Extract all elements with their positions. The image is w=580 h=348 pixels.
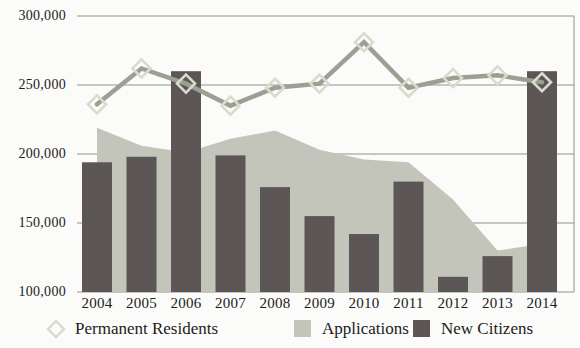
x-axis-label: 2006 — [163, 295, 209, 312]
y-axis-label: 300,000 — [0, 8, 66, 24]
open-diamond-icon — [46, 319, 66, 339]
x-axis-label: 2009 — [297, 295, 343, 312]
new-citizens-bar-2008 — [260, 187, 290, 292]
new-citizens-bar-2014 — [527, 71, 557, 292]
new-citizens-bar-2011 — [394, 182, 424, 292]
legend-item-applications: Applications — [294, 318, 409, 339]
legend-label-applications: Applications — [322, 318, 409, 339]
y-axis-label: 150,000 — [0, 215, 66, 231]
new-citizens-bar-2009 — [305, 216, 335, 292]
y-axis-label: 250,000 — [0, 77, 66, 93]
new-citizens-bar-2010 — [349, 234, 379, 292]
new-citizens-bar-2007 — [216, 155, 246, 292]
legend-item-new-citizens: New Citizens — [413, 318, 533, 339]
x-axis-label: 2014 — [519, 295, 565, 312]
y-axis-label: 200,000 — [0, 146, 66, 162]
new-citizens-bar-2013 — [483, 256, 513, 292]
applications-swatch-icon — [294, 320, 311, 337]
legend-label-permanent-residents: Permanent Residents — [75, 318, 218, 339]
legend-item-permanent-residents: Permanent Residents — [46, 318, 218, 339]
new-citizens-swatch-icon — [413, 320, 430, 337]
x-axis-label: 2004 — [74, 295, 120, 312]
x-axis-label: 2005 — [119, 295, 165, 312]
open-diamond-shape — [48, 321, 64, 337]
x-axis-label: 2011 — [386, 295, 432, 312]
new-citizens-bar-2004 — [82, 162, 112, 292]
new-citizens-bar-2006 — [171, 71, 201, 292]
x-axis-label: 2008 — [252, 295, 298, 312]
new-citizens-bar-2005 — [127, 157, 157, 292]
new-citizens-bar-2012 — [438, 277, 468, 292]
chart-figure: 100,000150,000200,000250,000300,000 2004… — [0, 0, 580, 348]
legend-label-new-citizens: New Citizens — [441, 318, 533, 339]
x-axis-label: 2007 — [208, 295, 254, 312]
x-axis-label: 2012 — [430, 295, 476, 312]
y-axis-label: 100,000 — [0, 284, 66, 300]
x-axis-label: 2010 — [341, 295, 387, 312]
x-axis-label: 2013 — [475, 295, 521, 312]
